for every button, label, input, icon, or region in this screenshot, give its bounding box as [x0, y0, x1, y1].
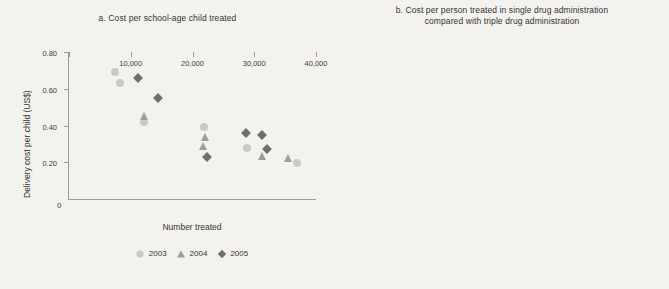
data-point-2005 — [241, 128, 251, 138]
legend-label: 2004 — [190, 249, 208, 258]
panel-b-title-line1: b. Cost per person treated in single dru… — [349, 5, 655, 16]
data-point-2004 — [284, 154, 292, 162]
legend-item-2004: 2004 — [177, 249, 208, 258]
x-axis-tick-label: 30,000 — [243, 59, 266, 68]
x-axis-tick — [131, 52, 132, 57]
x-axis-tick-label: 40,000 — [305, 59, 328, 68]
y-axis-tick-label: 0.40 — [42, 122, 57, 131]
legend-label: 2003 — [149, 249, 167, 258]
data-point-2004 — [199, 142, 207, 150]
panel-a-legend: 200320042005 — [68, 249, 316, 258]
legend-item-2005: 2005 — [217, 249, 248, 258]
x-axis-tick-label: 20,000 — [181, 59, 204, 68]
data-point-2005 — [133, 73, 143, 83]
data-point-2004 — [140, 112, 148, 120]
data-point-2004 — [258, 152, 266, 160]
y-axis-tick: 0.60 — [64, 89, 69, 90]
x-axis-tick — [316, 52, 317, 57]
x-axis-tick — [254, 52, 255, 57]
circle-icon — [136, 249, 145, 258]
y-axis-tick: 0.40 — [64, 126, 69, 127]
data-point-2003 — [200, 123, 208, 131]
x-axis-tick — [193, 52, 194, 57]
panel-a-origin-label: 0 — [57, 201, 61, 210]
data-point-2004 — [201, 133, 209, 141]
data-point-diamond — [218, 249, 226, 257]
data-point-2003 — [111, 68, 119, 76]
diamond-icon — [217, 249, 226, 258]
panel-a-cost-per-child: a. Cost per school-age child treated 0.2… — [0, 0, 335, 289]
data-point-2005 — [257, 130, 267, 140]
y-axis-tick-label: 0.60 — [42, 85, 57, 94]
data-point-2005 — [153, 93, 163, 103]
data-point-circle — [137, 250, 144, 257]
panel-b-title-line2: compared with triple drug administration — [349, 16, 655, 27]
y-axis-tick-label: 0.20 — [42, 159, 57, 168]
panel-b-cost-per-person: b. Cost per person treated in single dru… — [335, 0, 669, 289]
panel-a-x-axis-title: Number treated — [68, 222, 316, 232]
triangle-icon — [177, 249, 186, 258]
panel-b-title: b. Cost per person treated in single dru… — [335, 5, 669, 27]
legend-item-2003: 2003 — [136, 249, 167, 258]
data-point-2003 — [243, 144, 251, 152]
x-axis-tick — [69, 52, 70, 57]
y-axis-tick: 0.20 — [64, 162, 69, 163]
legend-label: 2005 — [230, 249, 248, 258]
panel-a-title: a. Cost per school-age child treated — [0, 13, 335, 24]
panel-a-plot-area: 0.200.400.600.8010,00020,00030,00040,000 — [68, 52, 316, 200]
panel-a-y-axis-title: Delivery cost per child (US$) — [22, 90, 32, 198]
data-point-triangle — [177, 250, 185, 257]
data-point-2003 — [293, 159, 301, 167]
data-point-2003 — [116, 79, 124, 87]
y-axis-tick-label: 0.80 — [42, 49, 57, 58]
x-axis-tick-label: 10,000 — [119, 59, 142, 68]
figure-container: a. Cost per school-age child treated 0.2… — [0, 0, 669, 289]
data-point-2005 — [202, 152, 212, 162]
